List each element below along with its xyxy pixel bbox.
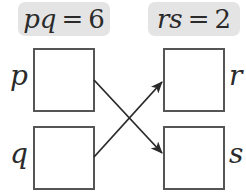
variable-label-q: q — [10, 140, 28, 168]
product-label-pq: pq = 6 — [18, 2, 110, 36]
arrow-p-to-s-icon — [94, 80, 162, 153]
product-value: 2 — [215, 6, 232, 32]
answer-box-s[interactable] — [163, 126, 225, 190]
product-variables: rs — [157, 6, 183, 32]
variable-label-p: p — [10, 62, 28, 90]
diagram-canvas: pq = 6 rs = 2 p q r s — [0, 0, 246, 192]
product-variables: pq — [23, 6, 56, 32]
product-label-rs: rs = 2 — [148, 2, 240, 36]
equals-sign: = — [188, 6, 210, 32]
equals-sign: = — [61, 6, 83, 32]
answer-box-q[interactable] — [33, 126, 95, 190]
product-value: 6 — [88, 6, 105, 32]
variable-label-r: r — [229, 62, 242, 90]
arrow-q-to-r-icon — [94, 82, 162, 157]
answer-box-p[interactable] — [33, 48, 95, 112]
answer-box-r[interactable] — [163, 48, 225, 112]
variable-label-s: s — [229, 140, 243, 168]
